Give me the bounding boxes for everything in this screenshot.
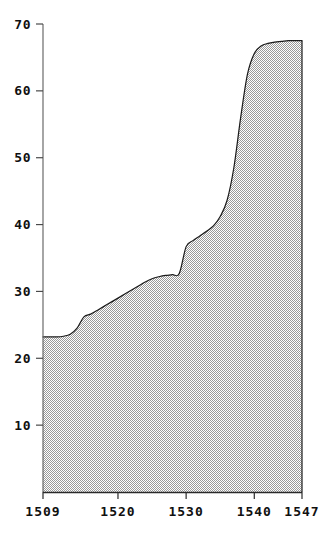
x-axis-tick-label: 1509 (25, 504, 60, 519)
x-axis-tick-label: 1520 (100, 504, 135, 519)
y-axis-tick-label: 30 (14, 284, 31, 299)
y-axis-tick-label: 50 (14, 150, 31, 165)
x-axis-tick-label: 1540 (237, 504, 272, 519)
y-axis-tick-label: 70 (14, 17, 31, 32)
chart-container: 10203040506070 15091520153015401547 (0, 0, 325, 533)
y-axis-tick-label: 60 (14, 83, 31, 98)
x-axis-tick-label: 1547 (284, 504, 319, 519)
area-chart: 10203040506070 15091520153015401547 (0, 0, 325, 533)
y-axis-tick-label: 40 (14, 217, 31, 232)
y-axis-tick-label: 10 (14, 418, 31, 433)
x-axis-tick-label: 1530 (168, 504, 203, 519)
y-axis-tick-label: 20 (14, 351, 31, 366)
